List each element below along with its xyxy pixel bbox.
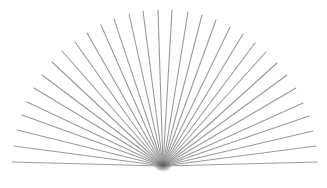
ray-line [22, 115, 163, 166]
ray-line [163, 15, 202, 166]
center-hub [153, 158, 173, 172]
ray-line [163, 20, 216, 166]
ray-line [163, 27, 230, 166]
ray-line [163, 63, 277, 166]
ray-line [163, 10, 172, 166]
radial-line-fan [0, 0, 327, 188]
ray-line [62, 51, 163, 166]
ray-group [12, 10, 317, 166]
ray-line [52, 62, 163, 166]
ray-line [34, 88, 163, 166]
ray-line [163, 34, 243, 166]
